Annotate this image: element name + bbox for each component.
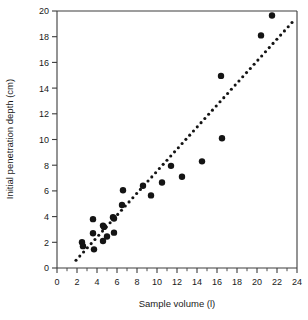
data-point [111,215,117,221]
trend-line-dot [211,109,214,112]
data-point [168,163,174,169]
x-tick-label: 18 [232,277,242,287]
trend-line-dot [146,180,149,183]
data-point [258,32,264,38]
trend-line-dot [264,50,267,53]
trend-line-dot [268,46,271,49]
data-point [104,233,110,239]
x-tick-label: 0 [54,277,59,287]
trend-line-dot [207,113,210,116]
y-tick-label: 6 [44,186,49,196]
trend-line-dot [188,134,191,137]
trend-line-dot [97,234,100,237]
trend-line-dot [173,150,176,153]
data-point [90,216,96,222]
trend-line-dot [241,75,244,78]
trend-line-dot [74,259,77,262]
x-tick-label: 24 [292,277,302,287]
y-tick-label: 8 [44,161,49,171]
scatter-chart: 024681012141618202224 02468101214161820 … [0,0,308,320]
data-point [91,246,97,252]
x-tick-label: 20 [252,277,262,287]
plot-frame [57,11,297,268]
data-point [120,187,126,193]
y-tick-label: 20 [39,6,49,16]
data-point [218,73,224,79]
trend-line-dot [256,59,259,62]
trend-line-dot [203,117,206,120]
trend-line-dot [279,34,282,37]
x-tick-label: 6 [114,277,119,287]
trend-line-dot [128,200,131,203]
data-point [269,12,275,18]
trend-line-dot [169,154,172,157]
trend-line-dot [177,146,180,149]
data-point [119,202,125,208]
data-point [179,174,185,180]
data-point [80,243,86,249]
trend-line-dot [287,25,290,28]
x-tick-label: 10 [152,277,162,287]
trend-line-dot [215,104,218,107]
y-tick-label: 10 [39,135,49,145]
trend-line-dot [131,196,134,199]
trend-line-dot [222,96,225,99]
trend-line-dot [82,250,85,253]
trend-line-dot [184,138,187,141]
trend-line-dot [196,125,199,128]
data-point [140,183,146,189]
trend-line-dot [109,221,112,224]
data-point [148,192,154,198]
x-tick-label: 12 [172,277,182,287]
trend-line-dot [245,71,248,74]
data-point [111,229,117,235]
data-points [79,12,275,252]
x-tick-label: 22 [272,277,282,287]
trend-line-dot [249,67,252,70]
trend-line-dot [78,255,81,258]
trend-line-dot [253,63,256,66]
trend-line-dot [275,38,278,41]
y-tick-label: 2 [44,238,49,248]
trend-line-dot [158,167,161,170]
y-tick-label: 18 [39,32,49,42]
y-tick-label: 14 [39,84,49,94]
trend-line-dot [260,54,263,57]
trend-line-dot [200,121,203,124]
trend-line-dot [135,192,138,195]
y-tick-label: 12 [39,109,49,119]
x-tick-label: 8 [134,277,139,287]
y-tick-label: 16 [39,58,49,68]
trend-line-dot [234,84,237,87]
trend-line-dot [230,88,233,91]
data-point [199,158,205,164]
x-axis-ticks [57,268,297,273]
trend-line-dot [86,246,89,249]
trend-line-dot [165,159,168,162]
y-axis-ticks [52,11,57,268]
y-tick-label: 0 [44,263,49,273]
y-axis-title: Initial penetration depth (cm) [4,79,15,199]
trend-line-dot [90,242,93,245]
trend-line-dot [181,142,184,145]
trend-line [74,21,293,262]
x-tick-label: 16 [212,277,222,287]
trend-line-dot [93,238,96,241]
x-axis-tick-labels: 024681012141618202224 [54,277,302,287]
trend-line-dot [120,209,123,212]
trend-line-dot [162,163,165,166]
trend-line-dot [283,29,286,32]
trend-line-dot [150,175,153,178]
trend-line-dot [272,42,275,45]
x-axis-title: Sample volume (l) [139,298,216,309]
data-point [90,230,96,236]
trend-line-dot [192,129,195,132]
trend-line-dot [218,100,221,103]
trend-line-dot [290,21,293,24]
x-tick-label: 2 [74,277,79,287]
trend-line-dot [237,79,240,82]
trend-line-dot [154,171,157,174]
y-axis-tick-labels: 02468101214161820 [39,6,49,273]
x-tick-label: 14 [192,277,202,287]
data-point [159,179,165,185]
